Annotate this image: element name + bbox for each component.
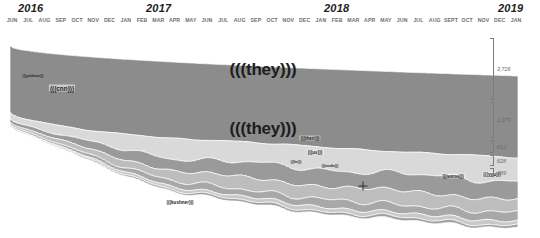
month-tick-label: DEC [299, 17, 310, 23]
month-tick-label: JUL [413, 17, 423, 23]
month-tick-label: MAR [347, 17, 359, 23]
scale-value-label: 3,726 [497, 66, 511, 72]
month-tick-label: FEB [137, 17, 148, 23]
month-tick-label: SEP [251, 17, 262, 23]
scale-bracket [490, 102, 494, 138]
month-tick-label: SEP [55, 17, 66, 23]
year-label: 2016 [18, 2, 43, 14]
scale-value-label: 389 [497, 170, 506, 176]
scale-value-label: 628 [497, 158, 506, 164]
month-tick-label: JAN [120, 17, 131, 23]
month-tick-label: AUG [429, 17, 441, 23]
month-tick-label: FEB [332, 17, 343, 23]
month-tick-label: OCT [267, 17, 278, 23]
month-tick-label: JUN [202, 17, 213, 23]
month-tick-label: MAY [380, 17, 391, 23]
month-axis: JUNJULAUGSEPOCTNOVDECJANFEBMARAPRMAYJUNJ… [0, 17, 540, 28]
plot-area [0, 28, 540, 238]
scale-bracket [490, 140, 494, 153]
month-tick-label: JUN [397, 17, 408, 23]
year-label: 2017 [146, 2, 171, 14]
year-axis: 2016 2017 2018 2019 [0, 0, 540, 16]
month-tick-label: NOV [88, 17, 100, 23]
month-tick-label: SEPT [444, 17, 458, 23]
month-tick-label: JAN [511, 17, 522, 23]
scale-bracket [490, 155, 494, 166]
month-tick-label: APR [169, 17, 180, 23]
value-scale: 3,7261,073812628389 [488, 28, 540, 228]
month-tick-label: JAN [316, 17, 327, 23]
month-tick-label: OCT [462, 17, 473, 23]
month-tick-label: MAR [152, 17, 164, 23]
year-label: 2019 [498, 2, 523, 14]
month-tick-label: JUL [218, 17, 228, 23]
stream-layers [0, 28, 540, 238]
month-tick-label: NOV [478, 17, 490, 23]
year-label: 2018 [324, 2, 349, 14]
scale-value-label: 1,073 [497, 117, 511, 123]
month-tick-label: DEC [104, 17, 115, 23]
month-tick-label: DEC [494, 17, 505, 23]
month-tick-label: NOV [283, 17, 295, 23]
scale-bracket [490, 38, 494, 100]
month-tick-label: AUG [234, 17, 246, 23]
month-tick-label: JUN [7, 17, 18, 23]
month-tick-label: APR [364, 17, 375, 23]
month-tick-label: JUL [23, 17, 33, 23]
crosshair-marker[interactable] [359, 182, 368, 191]
scale-value-label: 812 [497, 144, 506, 150]
month-tick-label: AUG [39, 17, 51, 23]
month-tick-label: MAY [185, 17, 196, 23]
streamgraph-chart: 2016 2017 2018 2019 JUNJULAUGSEPOCTNOVDE… [0, 0, 540, 238]
scale-bracket [490, 168, 494, 177]
month-tick-label: OCT [71, 17, 82, 23]
